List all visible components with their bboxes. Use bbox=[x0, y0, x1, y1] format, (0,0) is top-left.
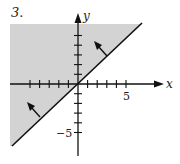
x-axis-arrow-icon bbox=[154, 81, 164, 88]
y-axis-arrow-icon bbox=[75, 13, 82, 23]
x-tick-label-5: 5 bbox=[123, 90, 130, 103]
figure-number-label: 3. bbox=[11, 5, 23, 20]
inequality-graph-figure: 3. 5 x bbox=[0, 0, 180, 164]
x-axis-label: x bbox=[166, 77, 173, 91]
graph-canvas: 5 x −5 y bbox=[0, 0, 180, 164]
y-tick-label-neg5: −5 bbox=[56, 127, 72, 140]
y-axis-label: y bbox=[82, 9, 90, 23]
